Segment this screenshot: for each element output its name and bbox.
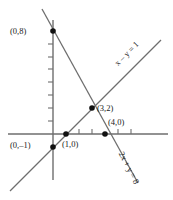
point-0-neg1 [50,144,56,150]
point-0-8 [50,28,56,34]
y-axis-ticks [48,44,53,121]
point-1-0 [63,131,69,137]
point-4-0 [102,131,108,137]
point-label-0-8: (0,8) [10,27,26,36]
point-label-3-2: (3,2) [97,104,113,113]
axes-group [8,20,168,180]
line-x-minus-y-equals-1 [10,40,161,191]
graph-figure: (0,8) (3,2) (4,0) (1,0) (0,–1) x – y = 1… [0,0,173,200]
point-label-1-0: (1,0) [62,140,78,149]
point-label-4-0: (4,0) [108,118,124,127]
point-3-2 [89,105,95,111]
point-label-0-neg1: (0,–1) [10,141,31,150]
